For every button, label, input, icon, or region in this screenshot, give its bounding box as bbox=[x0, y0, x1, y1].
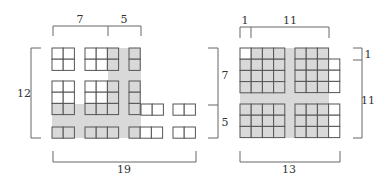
left-diagram: 75127519 bbox=[17, 13, 229, 176]
grid-cell bbox=[262, 115, 273, 126]
grid-cell bbox=[129, 59, 140, 70]
grid-cell bbox=[63, 127, 74, 138]
cell-block bbox=[85, 127, 119, 138]
grid-cell bbox=[63, 92, 74, 103]
dimension-label: 5 bbox=[222, 116, 229, 129]
grid-cell bbox=[96, 81, 107, 92]
grid-cell bbox=[240, 59, 251, 70]
grid-cell bbox=[251, 104, 262, 115]
dimension-bracket-left bbox=[31, 48, 41, 138]
grid-cell bbox=[107, 127, 118, 138]
grid-cell bbox=[107, 92, 118, 103]
grid-cell bbox=[63, 103, 74, 114]
dimension-bracket-right bbox=[208, 48, 218, 138]
grid-cell bbox=[85, 81, 96, 92]
grid-cell bbox=[52, 48, 63, 59]
grid-cell bbox=[240, 48, 251, 59]
grid-cell bbox=[262, 104, 273, 115]
dimension-label: 19 bbox=[117, 163, 131, 176]
dimension-bracket-bottom bbox=[240, 151, 340, 162]
cell-block bbox=[85, 48, 119, 70]
grid-cell bbox=[262, 82, 273, 93]
dimension-label: 11 bbox=[283, 14, 297, 27]
grid-cell bbox=[152, 104, 163, 115]
grid-cell bbox=[52, 81, 63, 92]
grid-cell bbox=[251, 115, 262, 126]
grid-cell bbox=[63, 59, 74, 70]
grid-cell bbox=[274, 48, 285, 59]
grid-cell bbox=[129, 48, 140, 59]
dimension-bracket-top bbox=[53, 26, 141, 36]
grid-cell bbox=[329, 59, 340, 70]
dimension-bracket-bottom bbox=[53, 151, 196, 162]
cell-block bbox=[85, 81, 119, 115]
grid-cell bbox=[317, 81, 328, 92]
grid-cell bbox=[329, 81, 340, 92]
grid-cell bbox=[85, 48, 96, 59]
grid-cell bbox=[306, 81, 317, 92]
grid-cell bbox=[306, 70, 317, 81]
grid-cell bbox=[262, 70, 273, 81]
grid-cell bbox=[107, 103, 118, 114]
grid-cell bbox=[295, 104, 306, 115]
dimension-label: 1 bbox=[242, 14, 249, 27]
grid-cell bbox=[173, 127, 184, 138]
grid-cell bbox=[317, 115, 328, 126]
grid-cell bbox=[129, 92, 140, 103]
grid-cell bbox=[262, 48, 273, 59]
grid-cell bbox=[262, 126, 273, 137]
grid-cell bbox=[129, 103, 140, 114]
right-diagram: 11111113 bbox=[240, 14, 375, 176]
cell-block bbox=[240, 104, 285, 138]
cell-block bbox=[295, 48, 329, 59]
cell-block bbox=[129, 48, 140, 70]
grid-cell bbox=[317, 70, 328, 81]
grid-cell bbox=[306, 59, 317, 70]
grid-cell bbox=[317, 48, 328, 59]
cell-block bbox=[129, 127, 163, 138]
grid-cell bbox=[141, 104, 152, 115]
grid-cell bbox=[85, 59, 96, 70]
grid-cell bbox=[274, 104, 285, 115]
grid-cell bbox=[107, 81, 118, 92]
grid-cell bbox=[262, 59, 273, 70]
grid-cell bbox=[251, 82, 262, 93]
grid-cell bbox=[306, 104, 317, 115]
grid-cell bbox=[184, 104, 195, 115]
grid-cell bbox=[329, 115, 340, 126]
grid-cell bbox=[251, 48, 262, 59]
grid-cell bbox=[107, 59, 118, 70]
dimension-label: 1 bbox=[365, 48, 372, 61]
grid-cell bbox=[96, 59, 107, 70]
dimension-label: 7 bbox=[77, 13, 84, 26]
grid-cell bbox=[184, 127, 195, 138]
grid-cell bbox=[63, 48, 74, 59]
grid-cell bbox=[295, 115, 306, 126]
grid-cell bbox=[96, 92, 107, 103]
cell-block bbox=[141, 104, 163, 115]
cell-block bbox=[52, 127, 74, 138]
dimension-label: 13 bbox=[282, 163, 296, 176]
grid-cell bbox=[63, 81, 74, 92]
grid-cell bbox=[240, 104, 251, 115]
grid-cell bbox=[306, 115, 317, 126]
grid-cell bbox=[52, 92, 63, 103]
cell-block bbox=[240, 48, 285, 93]
grid-cell bbox=[329, 104, 340, 115]
grid-cell bbox=[329, 70, 340, 81]
grid-cell bbox=[317, 59, 328, 70]
grid-cell bbox=[129, 81, 140, 92]
grid-cell bbox=[295, 126, 306, 137]
grid-cell bbox=[274, 70, 285, 81]
grid-cell bbox=[274, 59, 285, 70]
grid-cell bbox=[107, 48, 118, 59]
dimension-label: 12 bbox=[17, 87, 31, 100]
grid-cell bbox=[274, 115, 285, 126]
cell-block bbox=[173, 104, 195, 115]
grid-cell bbox=[240, 115, 251, 126]
dimension-label: 7 bbox=[222, 69, 229, 82]
dimension-bracket-right bbox=[353, 48, 362, 138]
grid-cell bbox=[240, 82, 251, 93]
cell-block bbox=[129, 81, 140, 115]
grid-cell bbox=[295, 48, 306, 59]
